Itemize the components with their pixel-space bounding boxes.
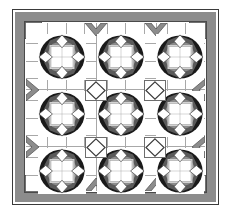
sashing-cornerstone xyxy=(85,80,107,101)
quilt-block xyxy=(97,34,145,80)
octagon-wheel-motif xyxy=(38,148,86,194)
quilt-field xyxy=(26,23,205,191)
octagon-wheel-motif xyxy=(38,34,86,80)
octagon-wheel-motif xyxy=(156,34,204,80)
sashing-cornerstone xyxy=(144,137,166,158)
seam-line-horizontal xyxy=(26,89,205,90)
quilt-block xyxy=(156,34,204,80)
quilt-outer-edge xyxy=(12,9,219,205)
quilt-block xyxy=(38,34,86,80)
quilt-block xyxy=(38,91,86,137)
sashing-cornerstone xyxy=(85,137,107,158)
sashing-cornerstone xyxy=(144,80,166,101)
quilt-block xyxy=(38,148,86,194)
octagon-wheel-motif xyxy=(38,91,86,137)
quilt-diagram xyxy=(0,0,231,224)
seam-line-horizontal xyxy=(26,146,205,147)
octagon-wheel-motif xyxy=(97,34,145,80)
